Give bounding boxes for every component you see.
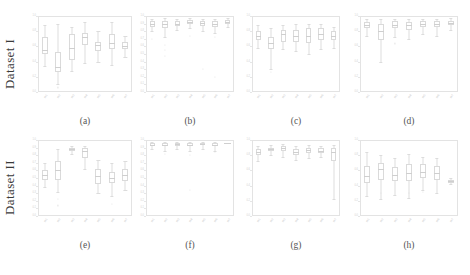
whisker-cap bbox=[407, 19, 410, 20]
y-tick-mark bbox=[36, 216, 38, 217]
x-tick-label: m3 bbox=[282, 218, 287, 223]
y-tick-mark bbox=[144, 178, 146, 179]
whisker-cap bbox=[307, 158, 310, 159]
box-plot-item bbox=[109, 16, 115, 92]
outlier-point bbox=[202, 69, 203, 70]
x-tick-label: m3 bbox=[394, 94, 399, 99]
box-plot-item bbox=[175, 16, 181, 92]
median-line bbox=[109, 43, 115, 44]
whisker-cap bbox=[282, 157, 285, 158]
whisker-cap bbox=[307, 54, 310, 55]
panel-caption-f: (f) bbox=[160, 240, 220, 250]
whisker-cap bbox=[282, 49, 285, 50]
x-tick-label: m7 bbox=[450, 94, 455, 99]
box-plot-item bbox=[364, 140, 370, 216]
whisker-cap bbox=[407, 39, 410, 40]
y-tick-mark bbox=[358, 186, 360, 187]
box-plot-item bbox=[150, 16, 156, 92]
whisker-cap bbox=[379, 19, 382, 20]
median-line bbox=[268, 43, 274, 44]
x-tick-label: m5 bbox=[422, 94, 427, 99]
whisker-cap bbox=[97, 160, 100, 161]
median-line bbox=[281, 148, 287, 149]
x-tick-label: m7 bbox=[226, 218, 231, 223]
whisker-cap bbox=[124, 57, 127, 58]
y-tick-mark bbox=[36, 163, 38, 164]
median-line bbox=[331, 36, 337, 37]
median-line bbox=[122, 175, 128, 176]
whisker-cap bbox=[393, 37, 396, 38]
median-line bbox=[406, 25, 412, 26]
panel-caption-b: (b) bbox=[160, 116, 220, 126]
whisker-cap bbox=[176, 30, 179, 31]
median-line bbox=[187, 145, 193, 146]
box-plot-item bbox=[225, 16, 231, 92]
panel-caption-a: (a) bbox=[55, 116, 115, 126]
box-plot-item bbox=[378, 16, 384, 92]
x-tick-label: m7 bbox=[450, 218, 455, 223]
boxplot-panel-a: 0.00.20.40.60.81.0m1m2m3m4m5m6m7 bbox=[38, 16, 132, 92]
box-iqr bbox=[378, 163, 384, 180]
x-tick-label: m3 bbox=[394, 218, 399, 223]
median-line bbox=[69, 48, 75, 49]
whisker-cap bbox=[421, 19, 424, 20]
whisker-cap bbox=[332, 199, 335, 200]
box-plot-item bbox=[82, 16, 88, 92]
x-tick-label: m3 bbox=[176, 218, 181, 223]
whisker-cap bbox=[188, 151, 191, 152]
whisker-cap bbox=[97, 62, 100, 63]
figure-canvas: Dataset I Dataset II 0.00.20.40.60.81.0m… bbox=[0, 0, 470, 275]
y-tick-mark bbox=[250, 140, 252, 141]
y-tick-mark bbox=[250, 31, 252, 32]
x-tick-label: m4 bbox=[295, 218, 300, 223]
whisker-cap bbox=[435, 158, 438, 159]
box-plot-item bbox=[200, 140, 206, 216]
whisker-cap bbox=[269, 69, 272, 70]
y-tick-mark bbox=[144, 46, 146, 47]
whisker-cap bbox=[57, 24, 60, 25]
box-iqr bbox=[95, 42, 101, 51]
whisker-cap bbox=[379, 199, 382, 200]
y-tick-mark bbox=[144, 148, 146, 149]
box-plot-item bbox=[187, 16, 193, 92]
y-tick-mark bbox=[36, 186, 38, 187]
y-tick-mark bbox=[358, 31, 360, 32]
whisker-cap bbox=[163, 151, 166, 152]
median-line bbox=[378, 169, 384, 170]
y-tick-mark bbox=[144, 140, 146, 141]
y-tick-mark bbox=[36, 170, 38, 171]
median-line bbox=[95, 176, 101, 177]
y-tick-mark bbox=[250, 77, 252, 78]
median-line bbox=[212, 24, 218, 25]
outlier-point bbox=[58, 205, 59, 206]
box-plot-item bbox=[95, 16, 101, 92]
y-tick-mark bbox=[36, 31, 38, 32]
y-tick-mark bbox=[358, 77, 360, 78]
x-tick-label: m2 bbox=[163, 218, 168, 223]
y-tick-mark bbox=[36, 193, 38, 194]
y-tick-mark bbox=[144, 62, 146, 63]
median-line bbox=[175, 144, 181, 145]
whisker-cap bbox=[294, 24, 297, 25]
box-plot-item bbox=[225, 140, 231, 216]
whisker-cap bbox=[294, 146, 297, 147]
x-tick-label: m7 bbox=[124, 218, 129, 223]
whisker-cap bbox=[57, 84, 60, 85]
box-plot-item bbox=[318, 140, 324, 216]
x-tick-label: m5 bbox=[201, 218, 206, 223]
x-tick-label: m4 bbox=[189, 94, 194, 99]
box-plot-item bbox=[281, 140, 287, 216]
whisker-cap bbox=[43, 66, 46, 67]
median-line bbox=[175, 24, 181, 25]
box-plot-item bbox=[175, 140, 181, 216]
x-tick-label: m5 bbox=[422, 218, 427, 223]
whisker-cap bbox=[124, 161, 127, 162]
boxplot-panel-f: 0.00.10.20.30.40.50.60.70.80.91.0m1m2m3m… bbox=[146, 140, 234, 216]
box-plot-item bbox=[306, 16, 312, 92]
box-plot-item bbox=[434, 16, 440, 92]
box-iqr bbox=[82, 33, 88, 45]
panel-caption-d: (d) bbox=[379, 116, 439, 126]
median-line bbox=[55, 67, 61, 68]
y-tick-mark bbox=[358, 62, 360, 63]
x-tick-label: m6 bbox=[214, 218, 219, 223]
